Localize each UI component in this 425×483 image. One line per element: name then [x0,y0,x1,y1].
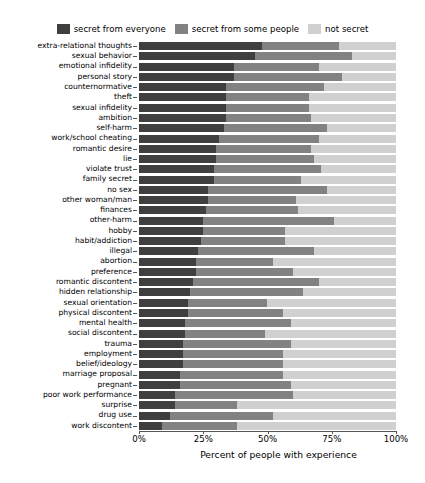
bar-segment-not-secret [319,278,396,286]
bar-segment-secret-from-some-people [206,206,299,214]
bar-segment-secret-from-everyone [139,422,162,430]
bar-row [139,422,396,430]
bar-row [139,206,396,214]
legend-item-secret-from-some-people: secret from some people [175,24,299,34]
bar-row [139,155,396,163]
bar-row [139,299,396,307]
bar-segment-secret-from-some-people [214,165,322,173]
bar-row [139,309,396,317]
y-axis-label: sexual orientation [63,299,132,307]
bar-segment-secret-from-some-people [188,299,268,307]
y-axis-tick [133,46,137,47]
bar-segment-secret-from-everyone [139,227,203,235]
y-axis-label: other woman/man [62,196,132,204]
bar-segment-secret-from-some-people [226,104,308,112]
bar-row [139,227,396,235]
bar-segment-secret-from-some-people [183,340,291,348]
bar-segment-secret-from-some-people [188,309,283,317]
y-axis-tick [133,200,137,201]
bar-row [139,391,396,399]
legend-label-secret-from-everyone: secret from everyone [74,24,166,34]
bar-segment-not-secret [301,176,396,184]
bar-segment-not-secret [283,309,396,317]
y-axis-tick [133,149,137,150]
bar-segment-secret-from-everyone [139,391,175,399]
y-axis-label: theft [114,93,132,101]
bar-row [139,401,396,409]
bar-row [139,42,396,50]
x-axis-tick-label: 50% [258,434,277,444]
bar-segment-secret-from-everyone [139,83,226,91]
bar-row [139,104,396,112]
bar-segment-not-secret [311,114,396,122]
y-axis-label: romantic desire [73,145,132,153]
bar-segment-not-secret [273,258,396,266]
bar-segment-secret-from-everyone [139,124,224,132]
y-axis-tick [133,262,137,263]
y-axis-tick [133,313,137,314]
y-axis-tick [133,303,137,304]
bar-segment-not-secret [237,422,396,430]
bar-segment-secret-from-everyone [139,268,196,276]
bar-segment-secret-from-some-people [196,268,294,276]
y-axis-label: preference [91,268,132,276]
bar-segment-secret-from-some-people [198,247,314,255]
bar-row [139,196,396,204]
bar-row [139,381,396,389]
bar-segment-secret-from-some-people [170,412,273,420]
bar-segment-not-secret [321,165,396,173]
bar-row [139,124,396,132]
bar-segment-not-secret [283,350,396,358]
bar-row [139,412,396,420]
bar-segment-secret-from-some-people [175,391,293,399]
y-axis-tick [133,334,137,335]
bar-segment-not-secret [303,288,396,296]
bar-segment-secret-from-everyone [139,288,190,296]
bar-segment-secret-from-some-people [193,278,319,286]
bar-segment-not-secret [324,83,396,91]
bar-segment-not-secret [291,319,396,327]
bar-segment-not-secret [319,63,396,71]
bar-segment-secret-from-everyone [139,206,206,214]
bar-row [139,176,396,184]
bar-row [139,217,396,225]
bar-segment-secret-from-some-people [234,73,342,81]
y-axis-label: work discontent [71,422,132,430]
bar-segment-secret-from-some-people [180,371,283,379]
bar-row [139,278,396,286]
bar-segment-secret-from-some-people [208,186,326,194]
y-axis-tick [133,375,137,376]
bar-row [139,288,396,296]
y-axis-label: belief/ideology [76,360,132,368]
y-axis-label: lie [123,155,132,163]
y-axis-label: social discontent [68,329,132,337]
y-axis-tick [133,251,137,252]
bar-segment-not-secret [291,340,396,348]
y-axis-tick [133,221,137,222]
bar-row [139,330,396,338]
bar-segment-not-secret [285,227,396,235]
x-axis-tick-label: 0% [132,434,146,444]
x-axis-title-text: Percent of people with experience [200,449,357,460]
y-axis-tick [133,169,137,170]
x-axis-tick-label: 25% [194,434,213,444]
y-axis-label: violate trust [86,165,132,173]
bar-segment-secret-from-everyone [139,412,170,420]
bar-segment-secret-from-everyone [139,299,188,307]
y-axis-label: abortion [100,257,132,265]
y-axis-tick [133,87,137,88]
bar-segment-secret-from-everyone [139,340,183,348]
y-axis-label: sexual behavior [72,52,132,60]
y-axis-label: work/school cheating [51,134,132,142]
bar-segment-secret-from-some-people [214,176,301,184]
bar-segment-secret-from-everyone [139,278,193,286]
chart-legend: secret from everyone secret from some pe… [0,22,425,36]
legend-item-secret-from-everyone: secret from everyone [57,24,166,34]
y-axis-label: self-harm [96,124,132,132]
bar-segment-not-secret [267,299,396,307]
y-axis-tick [133,210,137,211]
bar-row [139,247,396,255]
bar-segment-secret-from-some-people [183,360,283,368]
bar-segment-secret-from-some-people [224,124,327,132]
legend-swatch-secret-from-everyone [57,24,70,34]
